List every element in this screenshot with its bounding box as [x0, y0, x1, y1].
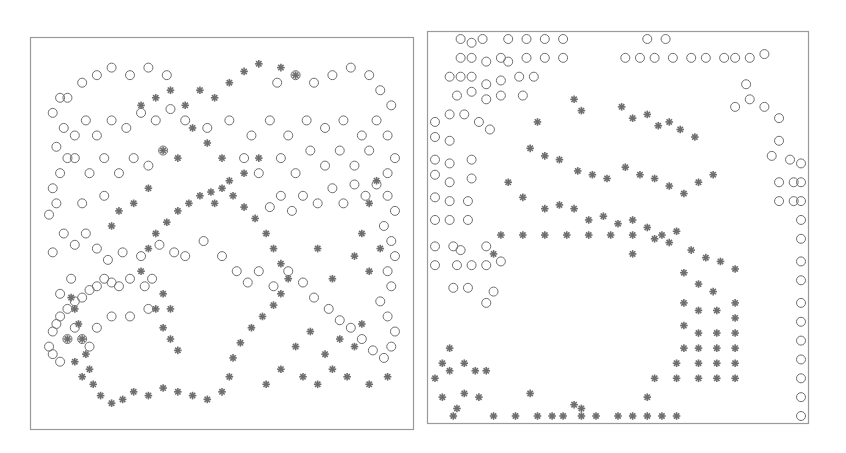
circle-marker [445, 136, 454, 145]
series-class-circle [45, 63, 400, 366]
asterisk-marker [453, 405, 461, 413]
asterisk-marker [314, 381, 322, 389]
circle-marker [445, 110, 454, 119]
circle-marker [474, 117, 483, 126]
circle-marker [797, 412, 806, 421]
circle-marker [372, 116, 381, 125]
asterisk-marker [643, 224, 651, 232]
asterisk-marker [680, 269, 688, 277]
asterisk-marker [137, 267, 145, 275]
asterisk-marker [307, 328, 315, 336]
circle-marker [52, 142, 61, 151]
asterisk-marker [314, 245, 322, 253]
asterisk-marker [82, 350, 90, 358]
circle-marker [431, 117, 440, 126]
circle-marker [365, 146, 374, 155]
asterisk-marker [292, 71, 300, 79]
asterisk-marker [563, 231, 571, 239]
asterisk-marker [137, 102, 145, 110]
asterisk-marker [196, 86, 204, 94]
circle-marker [379, 353, 388, 362]
circle-marker [445, 197, 454, 206]
circle-marker [496, 76, 505, 85]
circle-marker [496, 257, 505, 266]
asterisk-marker [673, 375, 681, 383]
asterisk-marker [240, 203, 248, 211]
circle-marker [452, 91, 461, 100]
asterisk-marker [673, 412, 681, 420]
asterisk-marker [181, 102, 189, 110]
circle-marker [797, 355, 806, 364]
asterisk-marker [431, 375, 439, 383]
asterisk-marker [695, 307, 703, 315]
asterisk-marker [534, 118, 542, 126]
circle-marker [463, 283, 472, 292]
asterisk-marker [607, 231, 615, 239]
asterisk-marker [629, 231, 637, 239]
asterisk-marker [218, 154, 226, 162]
asterisk-marker [196, 192, 204, 200]
circle-marker [489, 287, 498, 296]
asterisk-marker [651, 175, 659, 183]
asterisk-marker [259, 313, 267, 321]
asterisk-marker [237, 339, 245, 347]
circle-marker [376, 297, 385, 306]
circle-marker [431, 155, 440, 164]
asterisk-marker [570, 96, 578, 104]
circle-marker [540, 53, 549, 62]
asterisk-marker [519, 231, 527, 239]
circle-marker [350, 180, 359, 189]
asterisk-marker [207, 188, 215, 196]
asterisk-marker [460, 390, 468, 398]
circle-marker [162, 71, 171, 80]
circle-marker [276, 154, 285, 163]
asterisk-marker [152, 305, 160, 313]
circle-marker [284, 267, 293, 276]
circle-marker [797, 374, 806, 383]
asterisk-marker [119, 396, 127, 404]
circle-marker [463, 197, 472, 206]
asterisk-marker [185, 200, 193, 208]
circle-marker [775, 178, 784, 187]
circle-marker [181, 252, 190, 261]
circle-marker [85, 169, 94, 178]
asterisk-marker [75, 320, 83, 328]
asterisk-marker [717, 258, 725, 266]
asterisk-marker [713, 307, 721, 315]
asterisk-marker [570, 401, 578, 409]
asterisk-marker [731, 375, 739, 383]
asterisk-marker [229, 192, 237, 200]
circle-marker [48, 108, 57, 117]
circle-marker [276, 191, 285, 200]
asterisk-marker [270, 301, 278, 309]
asterisk-marker [559, 412, 567, 420]
asterisk-marker [167, 305, 175, 313]
circle-marker [390, 154, 399, 163]
asterisk-marker [614, 220, 622, 228]
circle-marker [85, 342, 94, 351]
circle-marker [129, 154, 138, 163]
asterisk-marker [71, 305, 79, 313]
circle-marker [118, 248, 127, 257]
circle-marker [687, 53, 696, 62]
asterisk-marker [163, 218, 171, 226]
circle-marker [170, 248, 179, 257]
asterisk-marker [240, 169, 248, 177]
asterisk-marker [71, 358, 79, 366]
asterisk-marker [365, 200, 373, 208]
circle-marker [361, 191, 370, 200]
right-scatter-plot [427, 31, 809, 424]
circle-marker [350, 161, 359, 170]
asterisk-marker [226, 79, 234, 87]
circle-marker [485, 125, 494, 134]
asterisk-marker [578, 405, 586, 413]
circle-marker [797, 276, 806, 285]
asterisk-marker [299, 373, 307, 381]
asterisk-marker [526, 390, 534, 398]
asterisk-marker [713, 375, 721, 383]
asterisk-marker [578, 412, 586, 420]
circle-marker [643, 35, 652, 44]
circle-marker [107, 116, 116, 125]
circle-marker [273, 78, 282, 87]
circle-marker [203, 123, 212, 132]
